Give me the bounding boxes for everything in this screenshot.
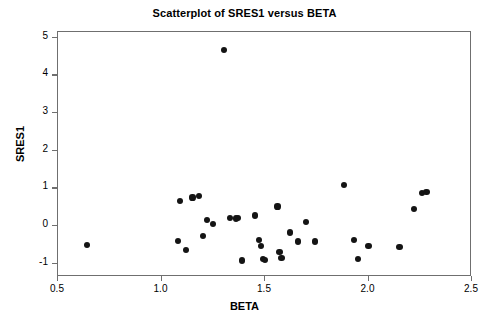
data-point [295,238,301,244]
x-tick-mark [368,276,369,281]
data-point [396,244,402,250]
data-point [175,238,181,244]
data-point [177,198,183,204]
x-tick-mark [471,276,472,281]
data-point [351,237,357,243]
data-point [411,206,417,212]
data-point [258,243,264,249]
y-tick-mark [52,74,57,75]
data-point [200,233,206,239]
data-point [210,221,216,227]
data-point [227,215,233,221]
x-tick-label: 0.5 [37,283,77,294]
y-tick-mark [52,112,57,113]
data-point [303,219,309,225]
x-tick-mark [161,276,162,281]
y-tick-mark [52,263,57,264]
x-tick-label: 1.0 [141,283,181,294]
data-point [312,238,318,244]
data-point [221,47,227,53]
x-tick-mark [264,276,265,281]
y-tick-label: 2 [22,143,48,154]
data-point [262,257,268,263]
y-tick-mark [52,187,57,188]
plot-area [58,32,470,275]
data-point [84,242,90,248]
data-point [189,194,195,200]
y-tick-label: 3 [22,105,48,116]
page-title: Scatterplot of SRES1 versus BETA [0,7,489,19]
data-point [276,249,282,255]
x-tick-label: 2.0 [348,283,388,294]
data-point [423,189,429,195]
data-point [239,257,245,263]
data-point [274,203,280,209]
data-point [235,215,241,221]
data-point [278,255,284,261]
data-point [287,229,293,235]
y-tick-mark [52,150,57,151]
data-point [252,212,258,218]
y-tick-label: -1 [22,256,48,267]
y-tick-mark [52,225,57,226]
data-point [183,247,189,253]
x-tick-label: 1.5 [244,283,284,294]
y-tick-label: 4 [22,67,48,78]
x-axis-label: BETA [0,300,489,312]
data-point [355,256,361,262]
y-tick-label: 0 [22,218,48,229]
x-tick-mark [57,276,58,281]
x-tick-label: 2.5 [451,283,489,294]
y-tick-label: 1 [22,180,48,191]
data-point [365,243,371,249]
y-tick-mark [52,37,57,38]
scatterplot-figure: Scatterplot of SRES1 versus BETA SRES1 0… [0,0,489,324]
data-point [341,182,347,188]
data-point [196,193,202,199]
plot-frame [57,31,471,276]
y-tick-label: 5 [22,30,48,41]
